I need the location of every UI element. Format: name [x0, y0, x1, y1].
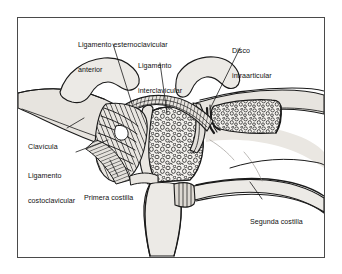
label-ligamento-costoclavicular: Ligamento costoclavicular [28, 155, 75, 222]
label-primera-costilla: Primera costilla [84, 177, 133, 219]
label-disco-intraarticular: Disco intraarticular [232, 30, 272, 97]
clavicle-right-head [176, 57, 240, 97]
label-line: interclavicular [138, 87, 182, 95]
anatomy-figure: Ligamento esternoclavicular anterior Lig… [0, 0, 342, 274]
label-line: intraarticular [232, 72, 272, 80]
label-line: costoclavicular [28, 197, 75, 205]
label-ligamento-interclavicular: Ligamento interclavicular [138, 45, 182, 112]
contour-lines [210, 140, 262, 181]
sternocostal-cartilage [174, 183, 196, 207]
label-line: Clavícula [28, 143, 58, 151]
label-segunda-costilla: Segunda costilla [250, 201, 303, 243]
label-line: Ligamento [28, 172, 75, 180]
clavicle-right-cut [211, 100, 281, 134]
label-line: Ligamento [138, 62, 182, 70]
label-line: Disco [232, 47, 272, 55]
label-line: Segunda costilla [250, 218, 303, 226]
label-line: Primera costilla [84, 194, 133, 202]
